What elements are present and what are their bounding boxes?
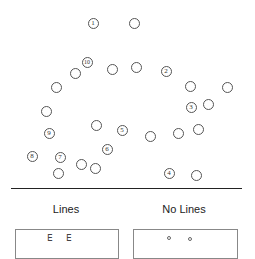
numbered-circle-3: 3 bbox=[186, 102, 197, 113]
stick-figure-icon: 𝖤 bbox=[66, 233, 72, 243]
circle-marker bbox=[193, 124, 204, 135]
no-lines-example-box bbox=[133, 229, 238, 259]
numbered-circle-4: 4 bbox=[164, 168, 175, 179]
stick-figure-icon: 𝖤 bbox=[47, 233, 53, 243]
lines-example-box: 𝖤 𝖤 bbox=[15, 229, 119, 259]
circle-marker bbox=[222, 82, 233, 93]
circle-marker bbox=[90, 163, 101, 174]
circle-marker bbox=[53, 168, 64, 179]
numbered-circle-9: 9 bbox=[44, 128, 55, 139]
numbered-circle-8: 8 bbox=[27, 151, 38, 162]
circle-marker bbox=[70, 68, 81, 79]
divider-line bbox=[11, 188, 242, 189]
condition-label-lines: Lines bbox=[53, 203, 79, 215]
dot-icon bbox=[167, 236, 171, 240]
dot-icon bbox=[188, 237, 192, 241]
numbered-circle-7: 7 bbox=[55, 152, 66, 163]
circle-marker bbox=[131, 62, 142, 73]
numbered-circle-5: 5 bbox=[117, 125, 128, 136]
circle-marker bbox=[185, 81, 196, 92]
circle-marker bbox=[203, 99, 214, 110]
numbered-circle-10: 10 bbox=[82, 57, 93, 68]
circle-marker bbox=[51, 82, 62, 93]
numbered-circle-1: 1 bbox=[88, 18, 99, 29]
numbered-circle-2: 2 bbox=[161, 66, 172, 77]
circle-marker bbox=[76, 159, 87, 170]
condition-label-no-lines: No Lines bbox=[162, 203, 205, 215]
circle-marker bbox=[129, 18, 140, 29]
circle-marker bbox=[41, 106, 52, 117]
circle-marker bbox=[191, 170, 202, 181]
numbered-circle-6: 6 bbox=[102, 144, 113, 155]
circle-marker bbox=[91, 120, 102, 131]
circle-marker bbox=[145, 131, 156, 142]
circle-marker bbox=[173, 128, 184, 139]
circle-marker bbox=[107, 64, 118, 75]
